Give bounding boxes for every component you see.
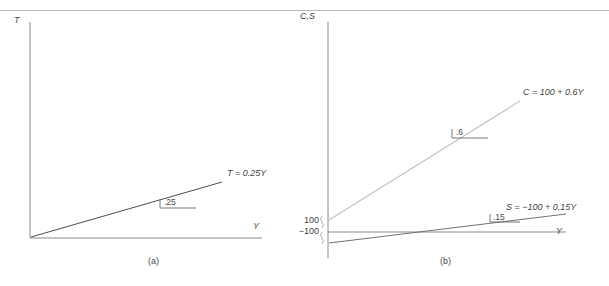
panel-b-saving-line [329,214,566,243]
panel-b-consumption-line [329,101,520,220]
panel-b-lower-brace [321,232,324,244]
panel-b-tick-label-upper: 100 [287,215,319,225]
panel-b-axes [328,22,566,258]
panel-a-y-axis-label: T [14,15,20,25]
panel-b-upper-brace [321,216,324,228]
panel-a-slope-label: .25 [164,197,176,207]
panel-a-axes [30,22,262,238]
panel-b-saving-slope-label: .15 [493,212,505,222]
figure-container: T Y T = 0.25Y .25 (a) C,S Y 100 −100 C =… [0,0,609,286]
panel-a-caption: (a) [148,256,159,266]
figure-vector-layer [0,0,609,286]
panel-b-y-axis-label: C,S [300,11,315,21]
panel-b-consumption-line-label: C = 100 + 0.6Y [523,87,584,97]
panel-a-line-label: T = 0.25Y [227,168,266,178]
panel-b-x-axis-label: Y [556,226,562,236]
panel-b-tick-label-lower: −100 [283,226,319,236]
panel-b-saving-line-label: S = −100 + 0.15Y [506,202,576,212]
panel-b-consumption-slope-label: .6 [456,127,463,137]
panel-a-x-axis-label: Y [253,221,259,231]
panel-a-tax-line [31,182,222,237]
panel-b-caption: (b) [440,256,451,266]
